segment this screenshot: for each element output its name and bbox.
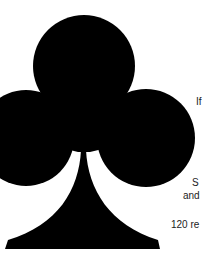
text-fragment-120: 120 re	[171, 220, 199, 230]
text-fragment-s: S	[192, 178, 199, 188]
text-fragment-if: If	[196, 97, 202, 107]
text-fragment-and: and	[183, 191, 200, 201]
club-suit-icon	[0, 0, 203, 256]
